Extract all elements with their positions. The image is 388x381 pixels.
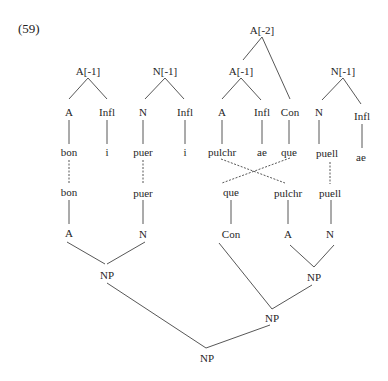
node-n: N [139, 106, 147, 118]
node-infl: Infl [99, 106, 115, 118]
morph-puell: puell [319, 187, 341, 199]
morph-puer: puer [133, 146, 153, 158]
node-infl: Infl [354, 110, 370, 122]
node-a-minus2: A[-2] [250, 24, 274, 36]
morph-bon: bon [61, 186, 78, 198]
node-a-minus1-left: A[-1] [76, 65, 100, 77]
morph-pulchr: pulchr [274, 187, 302, 199]
node-np-left: NP [100, 269, 114, 281]
node-a: A [65, 106, 73, 118]
node-n-minus1-right: N[-1] [331, 65, 355, 77]
morph-i: i [183, 146, 186, 158]
morph-que: que [281, 146, 297, 158]
node-con: Con [281, 106, 299, 118]
morph-que: que [223, 186, 239, 198]
node-n: N [326, 228, 334, 240]
node-n: N [139, 228, 147, 240]
node-n-minus1-left: N[-1] [153, 65, 177, 77]
node-a: A [218, 106, 226, 118]
morph-bon: bon [61, 146, 78, 158]
node-a-minus1-mid: A[-1] [229, 65, 253, 77]
morph-puer: puer [133, 187, 153, 199]
node-infl: Infl [177, 106, 193, 118]
node-infl: Infl [254, 106, 270, 118]
morph-pulchr: pulchr [208, 146, 236, 158]
node-np-right: NP [307, 271, 321, 283]
node-n: N [315, 106, 323, 118]
morph-i: i [105, 146, 108, 158]
morph-ae: ae [356, 151, 366, 163]
node-np-mid: NP [265, 312, 279, 324]
node-np-root: NP [200, 352, 214, 364]
morph-ae: ae [257, 146, 267, 158]
morph-puell: puell [316, 147, 338, 159]
node-a: A [65, 227, 73, 239]
node-con: Con [222, 228, 240, 240]
node-a: A [284, 228, 292, 240]
